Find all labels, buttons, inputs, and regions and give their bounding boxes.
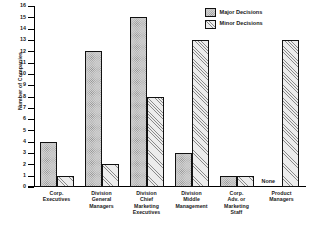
y-tick-label: 12 bbox=[12, 49, 26, 54]
y-tick-label: 7 bbox=[12, 105, 26, 110]
legend-swatch-major-icon bbox=[205, 8, 216, 17]
bar-major bbox=[40, 142, 57, 187]
y-tick-label: 8 bbox=[12, 94, 26, 99]
bar-major bbox=[175, 153, 192, 187]
chart-legend: Major Decisions Minor Decisions bbox=[205, 8, 263, 29]
legend-label-major: Major Decisions bbox=[220, 10, 263, 16]
x-axis-category-label: Corp.Adv. orMarketingStaff bbox=[214, 190, 259, 216]
x-axis-category-label: DivisionMiddleManagement bbox=[169, 190, 214, 209]
y-tick-label: 5 bbox=[12, 128, 26, 133]
bar-major bbox=[85, 51, 102, 187]
x-axis-category-label: ProductManagers bbox=[259, 190, 304, 203]
y-tick-label: 0 bbox=[12, 184, 26, 189]
bar-minor bbox=[102, 164, 119, 187]
y-tick-label: 1 bbox=[12, 173, 26, 178]
legend-swatch-minor-icon bbox=[205, 20, 216, 29]
y-tick-label: 16 bbox=[12, 3, 26, 8]
y-tick-label: 4 bbox=[12, 139, 26, 144]
y-tick-label: 11 bbox=[12, 60, 26, 65]
bar-major bbox=[220, 176, 237, 187]
x-axis-category-label: DivisionGeneralManagers bbox=[79, 190, 124, 209]
bar-major bbox=[130, 17, 147, 187]
legend-item-minor: Minor Decisions bbox=[205, 20, 263, 29]
bar-minor bbox=[282, 40, 299, 187]
plot-area bbox=[34, 6, 304, 187]
legend-item-major: Major Decisions bbox=[205, 8, 263, 17]
y-tick bbox=[28, 187, 34, 188]
bar-minor bbox=[192, 40, 209, 187]
x-axis-category-label: DivisionChiefMarketingExecutives bbox=[124, 190, 169, 216]
y-tick-label: 3 bbox=[12, 150, 26, 155]
bar-minor bbox=[57, 176, 74, 187]
bar-annotation-none: None bbox=[262, 179, 275, 184]
bar-minor bbox=[237, 176, 254, 187]
legend-label-minor: Minor Decisions bbox=[220, 21, 263, 27]
y-tick-label: 10 bbox=[12, 71, 26, 76]
bar-chart: Number of Companies 01234567891011121314… bbox=[0, 0, 309, 230]
y-tick-label: 15 bbox=[12, 15, 26, 20]
y-tick-label: 2 bbox=[12, 162, 26, 167]
x-axis-category-label: Corp.Executives bbox=[34, 190, 79, 203]
y-tick-label: 9 bbox=[12, 82, 26, 87]
y-tick-label: 14 bbox=[12, 26, 26, 31]
bar-minor bbox=[147, 97, 164, 188]
y-tick-label: 6 bbox=[12, 116, 26, 121]
y-tick-label: 13 bbox=[12, 37, 26, 42]
